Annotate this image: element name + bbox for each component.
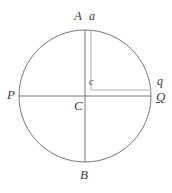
point-label-q: q [157,75,163,87]
point-label-c: c [89,77,93,87]
point-label-a: a [89,10,95,22]
circle-geometry-svg [0,0,172,193]
point-label-B: B [80,168,88,181]
point-label-Q: Q [156,90,165,103]
point-label-A: A [74,9,82,22]
figure-container: A a P q Q c C B [0,0,172,193]
point-label-C: C [74,99,83,112]
point-label-P: P [7,88,15,101]
